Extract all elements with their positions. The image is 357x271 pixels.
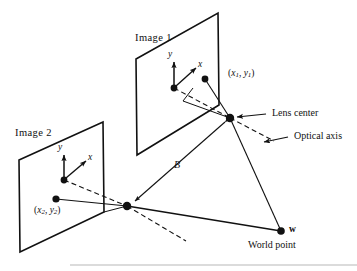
image2-point-label: (x2, y2): [34, 206, 61, 216]
world-point-symbol-label: w: [289, 225, 296, 235]
optical-axis-1-inner-dashed: [174, 88, 230, 118]
optical-axis-label: Optical axis: [294, 131, 342, 141]
image-plane-1-label: Image 1: [135, 33, 172, 44]
world-point-dot: [277, 227, 285, 235]
ray-plane1-axis-tick: [183, 88, 193, 101]
lens-center-label: Lens center: [272, 108, 318, 118]
image1-x-axis-arrow: [176, 68, 196, 86]
optical-axis-1-outer-dashed: [230, 118, 274, 141]
image2-x-axis-label: x: [88, 153, 92, 163]
image1-axes: [171, 62, 209, 91]
world-point: [277, 227, 285, 235]
image1-origin-dot: [171, 85, 178, 92]
lens-center-leader-arrow: [237, 114, 266, 117]
image1-x-axis-label: x: [198, 60, 202, 70]
image2-point-dot: [52, 195, 59, 202]
image2-axes: [52, 155, 86, 203]
optical-axis-2-inner-dashed: [64, 180, 127, 206]
image-plane-2-label: Image 2: [15, 128, 52, 139]
image2-origin-dot: [61, 177, 68, 184]
image1-y-axis-label: y: [168, 50, 172, 60]
ray-plane1-edge-to-lens1: [183, 101, 230, 118]
figure-stereo-imaging-geometry: Image 1 Image 2 y x y x (x1, y1) (x2, y2…: [0, 0, 357, 271]
paren-close-2: ): [57, 205, 60, 215]
baseline-label: B: [174, 160, 180, 170]
ray-lens2-to-world-point: [127, 206, 281, 231]
ray-image2-point-to-lens2: [56, 199, 127, 206]
world-point-label: World point: [248, 240, 296, 250]
paren-close: ): [251, 68, 254, 78]
callout-leaders: [237, 114, 288, 142]
ray-group-camera-1: [174, 79, 281, 231]
ray-group-camera-2: [56, 180, 281, 241]
lens-center-2-dot: [123, 202, 131, 210]
ray-lens1-to-world-point: [230, 118, 281, 231]
image2-y-axis-label: y: [58, 143, 62, 153]
image1-point-label: (x1, y1): [228, 69, 255, 79]
image2-x-axis-arrow: [66, 161, 86, 178]
image1-point-dot: [202, 76, 209, 83]
lens-center-1-dot: [226, 114, 234, 122]
